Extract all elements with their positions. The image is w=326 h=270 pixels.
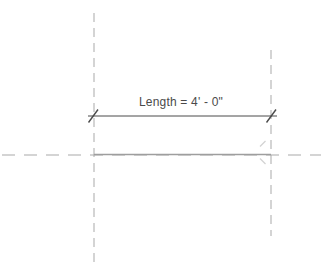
snap-indicator-marks xyxy=(260,141,266,164)
dimension-value-text[interactable]: Length = 4' - 0" xyxy=(139,95,223,109)
snap-mark-upper xyxy=(260,141,266,147)
drawing-canvas[interactable]: Length = 4' - 0" xyxy=(0,0,326,270)
snap-mark-lower xyxy=(260,159,266,165)
dimension[interactable]: Length = 4' - 0" xyxy=(88,95,277,123)
drawing-viewport[interactable]: Length = 4' - 0" xyxy=(0,0,326,270)
